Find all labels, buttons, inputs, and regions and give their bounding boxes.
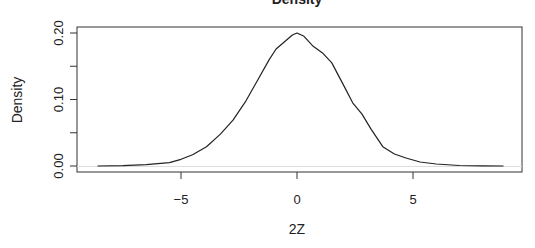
density-plot: Density 0.000.100.20 −505 2Z Density xyxy=(0,0,535,248)
y-axis-title: Density xyxy=(9,77,25,124)
x-tick-label: −5 xyxy=(174,192,189,207)
y-tick-label: 0.00 xyxy=(51,153,66,178)
plot-frame xyxy=(77,27,522,172)
density-curve xyxy=(98,33,504,166)
x-tick-label: 5 xyxy=(409,192,416,207)
chart-title: Density xyxy=(272,0,323,7)
x-axis-title: 2Z xyxy=(289,221,306,237)
x-tick-label: 0 xyxy=(293,192,300,207)
y-tick-label: 0.20 xyxy=(51,20,66,45)
x-axis: −505 xyxy=(174,172,417,207)
y-axis: 0.000.100.20 xyxy=(51,20,77,178)
y-tick-label: 0.10 xyxy=(51,87,66,112)
